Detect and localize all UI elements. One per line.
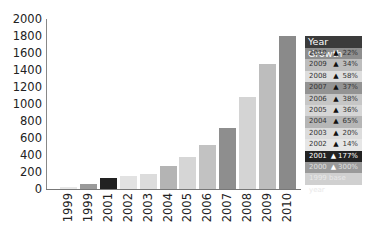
- triangle-up-icon: ▲: [329, 151, 338, 162]
- legend-year: 2005: [305, 105, 331, 116]
- bar-2003: [140, 174, 157, 189]
- triangle-up-icon: ▲: [331, 105, 341, 116]
- x-tick-label: 1999: [81, 193, 95, 227]
- legend-year: 2007: [305, 82, 331, 93]
- bar-2004: [160, 166, 177, 189]
- legend-year: 2002: [305, 139, 331, 150]
- y-tick-label: 0: [0, 183, 42, 195]
- legend-growth-pct: 38%: [341, 94, 362, 105]
- y-tick-label: 2000: [0, 13, 42, 25]
- bar-2002: [120, 176, 137, 189]
- triangle-up-icon: ▲: [331, 59, 341, 70]
- bar-2005: [179, 157, 196, 189]
- legend-year: 2003: [305, 128, 331, 139]
- legend-year: 2008: [305, 71, 331, 82]
- legend-growth-pct: 36%: [341, 105, 362, 116]
- legend-row-2000: 2000▲300%: [305, 162, 362, 173]
- legend-row-2005: 2005▲36%: [305, 105, 362, 116]
- triangle-up-icon: ▲: [331, 139, 341, 150]
- bar-2007: [219, 128, 236, 189]
- legend-rows: 2010▲22%2009▲34%2008▲58%2007▲37%2006▲38%…: [305, 48, 362, 173]
- legend-row-2002: 2002▲14%: [305, 139, 362, 150]
- legend-row-2008: 2008▲58%: [305, 71, 362, 82]
- legend-growth-pct: 58%: [341, 71, 362, 82]
- legend-base-row: 1999 base year: [305, 173, 362, 184]
- bar-2008: [239, 97, 256, 189]
- legend-growth-pct: 65%: [341, 116, 362, 127]
- triangle-up-icon: ▲: [331, 71, 341, 82]
- legend-row-2006: 2006▲38%: [305, 94, 362, 105]
- triangle-up-icon: ▲: [331, 48, 341, 59]
- y-tick-label: 200: [0, 166, 42, 178]
- bar-2010: [279, 36, 296, 189]
- x-tick-label: 1999: [61, 193, 75, 227]
- triangle-up-icon: ▲: [331, 116, 341, 127]
- legend-growth-pct: 37%: [341, 82, 362, 93]
- legend-row-2009: 2009▲34%: [305, 59, 362, 70]
- triangle-up-icon: ▲: [331, 82, 341, 93]
- legend-year: 2010: [305, 48, 331, 59]
- x-tick-label: 2005: [180, 193, 194, 227]
- legend-growth-pct: 20%: [341, 128, 362, 139]
- x-tick-label: 2010: [280, 193, 294, 227]
- bar-2009: [259, 64, 276, 189]
- x-tick-label: 2009: [260, 193, 274, 227]
- x-tick-label: 2003: [141, 193, 155, 227]
- x-tick-label: 2001: [101, 193, 115, 227]
- y-tick-label: 1400: [0, 64, 42, 76]
- legend-row-2001: 2001▲177%: [305, 151, 362, 162]
- legend-growth-pct: 22%: [341, 48, 362, 59]
- x-axis-line: [46, 189, 301, 190]
- y-axis-line: [46, 19, 47, 189]
- x-tick-label: 2002: [121, 193, 135, 227]
- y-tick-label: 1000: [0, 98, 42, 110]
- y-tick-label: 1200: [0, 81, 42, 93]
- legend-growth-pct: 34%: [341, 59, 362, 70]
- legend-growth-pct: 300%: [338, 162, 362, 173]
- legend-growth-pct: 14%: [341, 139, 362, 150]
- legend-title: Year Growth: [305, 36, 362, 48]
- x-tick-label: 2008: [240, 193, 254, 227]
- legend-row-2010: 2010▲22%: [305, 48, 362, 59]
- y-tick-label: 1800: [0, 30, 42, 42]
- legend-year-growth: Year Growth 2010▲22%2009▲34%2008▲58%2007…: [305, 36, 362, 185]
- legend-row-2007: 2007▲37%: [305, 82, 362, 93]
- legend-row-2004: 2004▲65%: [305, 116, 362, 127]
- triangle-up-icon: ▲: [329, 162, 338, 173]
- legend-row-2003: 2003▲20%: [305, 128, 362, 139]
- bar-2006: [199, 145, 216, 189]
- triangle-up-icon: ▲: [331, 128, 341, 139]
- legend-year: 2006: [305, 94, 331, 105]
- y-tick-label: 800: [0, 115, 42, 127]
- triangle-up-icon: ▲: [331, 94, 341, 105]
- bar-2001: [100, 178, 117, 189]
- legend-growth-pct: 177%: [338, 151, 362, 162]
- bar-chart: 0200400600800100012001400160018002000 19…: [0, 0, 379, 230]
- x-tick-label: 2006: [200, 193, 214, 227]
- x-tick-label: 2004: [161, 193, 175, 227]
- legend-year: 2000: [305, 162, 329, 173]
- y-tick-label: 1600: [0, 47, 42, 59]
- legend-year: 2001: [305, 151, 329, 162]
- y-tick-label: 600: [0, 132, 42, 144]
- legend-year: 2009: [305, 59, 331, 70]
- legend-year: 2004: [305, 116, 331, 127]
- x-tick-label: 2007: [220, 193, 234, 227]
- y-tick-label: 400: [0, 149, 42, 161]
